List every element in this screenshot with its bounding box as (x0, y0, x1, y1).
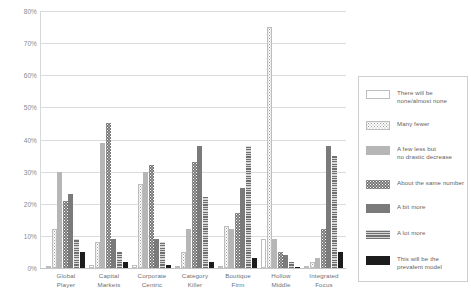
gridlines-and-bars: GlobalPlayerCapitalMarketsCorporateCentr… (40, 0, 352, 301)
bar (143, 172, 148, 268)
x-axis-tick-label: IntegratedFocus (289, 272, 359, 289)
bar (63, 201, 68, 268)
bar (57, 172, 62, 268)
legend-swatch-icon (366, 121, 390, 130)
bar (175, 266, 180, 268)
bar (246, 146, 251, 268)
legend-label: A bit more (397, 203, 425, 211)
bar (138, 184, 143, 268)
legend-item[interactable]: A lot more (366, 229, 425, 239)
gridline (40, 268, 346, 269)
legend-item[interactable]: There will be none/almost none (366, 89, 447, 105)
bar (315, 258, 320, 268)
bar (203, 197, 208, 268)
bar (289, 262, 294, 268)
bar (132, 265, 137, 268)
bar (295, 267, 300, 268)
y-axis-tick-label: 30% (24, 168, 37, 175)
y-axis: 80%70%60%50%40%30%20%10%0% (0, 0, 40, 301)
y-axis-tick-label: 40% (24, 136, 37, 143)
legend-label: About the same number (397, 179, 464, 187)
bar (310, 262, 315, 268)
bar (283, 255, 288, 268)
bar (209, 262, 214, 268)
bar (278, 252, 283, 268)
bar (218, 266, 223, 268)
legend-label: This will be the prevalent model (397, 255, 442, 271)
legend-swatch-icon (366, 146, 390, 155)
bar (166, 265, 171, 268)
y-axis-tick-label: 20% (24, 200, 37, 207)
bar (160, 242, 165, 268)
bar (224, 226, 229, 268)
bar (267, 27, 272, 268)
chart-legend: There will be none/almost noneMany fewer… (358, 76, 468, 282)
y-axis-tick-label: 60% (24, 72, 37, 79)
bar (338, 252, 343, 268)
bar (235, 213, 240, 268)
legend-item[interactable]: This will be the prevalent model (366, 255, 442, 271)
y-axis-tick-label: 0% (27, 265, 37, 272)
bar (261, 239, 266, 268)
bar (117, 252, 122, 268)
bar (106, 123, 111, 268)
bar (95, 242, 100, 268)
legend-swatch-icon (366, 230, 390, 239)
bar (326, 146, 331, 268)
bar (68, 194, 73, 268)
grouped-bar-chart: 80%70%60%50%40%30%20%10%0% GlobalPlayerC… (0, 0, 471, 301)
bar (52, 229, 57, 268)
legend-label: Many fewer (397, 120, 430, 128)
bar (74, 239, 79, 268)
legend-label: There will be none/almost none (397, 89, 447, 105)
bar (181, 252, 186, 268)
legend-item[interactable]: About the same number (366, 179, 464, 189)
plot-area: 80%70%60%50%40%30%20%10%0% GlobalPlayerC… (0, 0, 352, 301)
y-axis-tick-label: 50% (24, 104, 37, 111)
bar (186, 229, 191, 268)
bar (149, 165, 154, 268)
bar (252, 258, 257, 268)
bar (192, 162, 197, 268)
legend-swatch-icon (366, 204, 390, 213)
legend-swatch-icon (366, 180, 390, 189)
legend-swatch-icon (366, 256, 390, 265)
legend-item[interactable]: A few less but no drastic decrease (366, 145, 452, 161)
bar (80, 252, 85, 268)
y-axis-tick-label: 70% (24, 40, 37, 47)
bar (272, 239, 277, 268)
bar (197, 146, 202, 268)
bar (100, 143, 105, 268)
bar (154, 239, 159, 268)
bar (229, 229, 234, 268)
y-axis-tick-label: 80% (24, 8, 37, 15)
legend-label: A lot more (397, 229, 425, 237)
y-axis-tick-label: 10% (24, 232, 37, 239)
bar (46, 266, 51, 268)
legend-item[interactable]: Many fewer (366, 120, 430, 130)
legend-swatch-icon (366, 90, 390, 99)
bar (89, 265, 94, 268)
bar (111, 239, 116, 268)
legend-item[interactable]: A bit more (366, 203, 425, 213)
bar (332, 156, 337, 268)
bar (240, 188, 245, 268)
bar (123, 262, 128, 268)
legend-label: A few less but no drastic decrease (397, 145, 452, 161)
bar (304, 266, 309, 268)
bar (321, 229, 326, 268)
